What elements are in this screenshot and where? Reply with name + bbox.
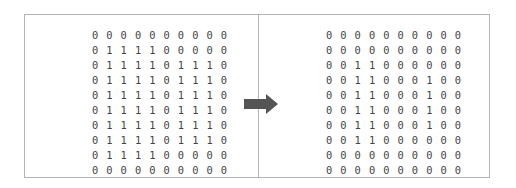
grid-row: 0 0 0 0 0 0 0 0 0 0 — [326, 163, 462, 178]
grid-row: 0 1 1 1 1 0 0 0 0 0 — [92, 43, 228, 58]
grid-row: 0 0 1 1 0 0 0 1 0 0 — [326, 88, 462, 103]
grid-row: 0 1 1 1 1 0 1 1 1 0 — [92, 103, 228, 118]
grid-row: 0 0 0 0 0 0 0 0 0 0 — [326, 28, 462, 43]
grid-row: 0 0 0 0 0 0 0 0 0 0 — [92, 28, 228, 43]
diagram-frame: 0 0 0 0 0 0 0 0 0 0 0 1 1 1 1 0 0 0 0 0 … — [24, 14, 490, 178]
grid-row: 0 1 1 1 1 0 1 1 1 0 — [92, 133, 228, 148]
grid-row: 0 1 1 1 1 0 1 1 1 0 — [92, 73, 228, 88]
grid-row: 0 0 1 1 0 0 0 1 0 0 — [326, 103, 462, 118]
grid-row: 0 0 0 0 0 0 0 0 0 0 — [92, 163, 228, 178]
grid-row: 0 0 1 1 0 0 0 1 0 0 — [326, 73, 462, 88]
grid-row: 0 0 1 1 0 0 0 0 0 0 — [326, 133, 462, 148]
grid-row: 0 1 1 1 1 0 1 1 1 0 — [92, 58, 228, 73]
grid-row: 0 0 0 0 0 0 0 0 0 0 — [326, 43, 462, 58]
grid-row: 0 1 1 1 1 0 1 1 1 0 — [92, 118, 228, 133]
grid-row: 0 0 1 1 0 0 0 1 0 0 — [326, 118, 462, 133]
right-arrow-icon — [244, 94, 278, 114]
grid-row: 0 0 0 0 0 0 0 0 0 0 — [326, 148, 462, 163]
input-grid: 0 0 0 0 0 0 0 0 0 0 0 1 1 1 1 0 0 0 0 0 … — [92, 28, 228, 178]
output-grid: 0 0 0 0 0 0 0 0 0 0 0 0 0 0 0 0 0 0 0 0 … — [326, 28, 462, 178]
grid-row: 0 1 1 1 1 0 0 0 0 0 — [92, 148, 228, 163]
grid-row: 0 1 1 1 1 0 1 1 1 0 — [92, 88, 228, 103]
grid-row: 0 0 1 1 0 0 0 0 0 0 — [326, 58, 462, 73]
